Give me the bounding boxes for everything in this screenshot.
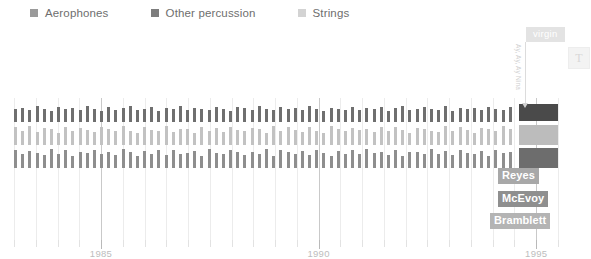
- chart-bar: [14, 109, 17, 122]
- axis-tick: [340, 240, 341, 247]
- chart-bar: [294, 130, 297, 145]
- chart-bar: [466, 153, 469, 168]
- chart-bar: [365, 149, 368, 168]
- chart-bar: [487, 107, 490, 122]
- annotation-badge-virgin[interactable]: virgin: [526, 27, 565, 42]
- chart-bar: [172, 109, 175, 122]
- name-label-reyes[interactable]: Reyes: [498, 168, 539, 184]
- axis-tick: [558, 240, 559, 247]
- chart-bar: [122, 108, 125, 122]
- chart-bar: [265, 149, 268, 168]
- chart-bar: [165, 155, 168, 168]
- chart-bar: [222, 154, 225, 168]
- chart-bar: [172, 150, 175, 168]
- chart-bar: [502, 126, 505, 145]
- chart-bar: [322, 153, 325, 168]
- chart-bar: [401, 106, 404, 122]
- legend-item-strings[interactable]: Strings: [298, 7, 350, 19]
- highlight-block-other-percussion[interactable]: [519, 148, 558, 168]
- chart-bar: [21, 154, 24, 168]
- chart-bar: [251, 128, 254, 145]
- chart-bar: [279, 107, 282, 122]
- chart-bar: [437, 132, 440, 145]
- chart-bar: [258, 129, 261, 145]
- chart-bar: [365, 129, 368, 145]
- chart-bar: [380, 107, 383, 122]
- chart-bar: [444, 126, 447, 145]
- chart-bar: [322, 111, 325, 122]
- chart-bar: [165, 108, 168, 122]
- chart-bar: [423, 154, 426, 168]
- chart-bar: [243, 155, 246, 168]
- chart-legend: Aerophones Other percussion Strings: [30, 7, 391, 19]
- axis-tick: [493, 240, 494, 247]
- chart-bar: [330, 108, 333, 122]
- axis-tick: [36, 240, 37, 247]
- chart-bar: [509, 152, 512, 168]
- legend-swatch-strings: [298, 9, 306, 17]
- chart-bar: [64, 127, 67, 145]
- chart-bar: [36, 132, 39, 145]
- chart-bar: [251, 152, 254, 168]
- chart-bar: [150, 154, 153, 168]
- chart-bar: [294, 108, 297, 122]
- chart-bar: [243, 108, 246, 122]
- chart-bar: [258, 106, 261, 122]
- chart-bar: [129, 131, 132, 145]
- axis-tick: [297, 240, 298, 247]
- chart-bar: [330, 126, 333, 145]
- chart-bar: [179, 106, 182, 122]
- name-label-mcevoy[interactable]: McEvoy: [498, 191, 548, 207]
- chart-bar: [86, 106, 89, 122]
- chart-bar: [394, 108, 397, 122]
- axis-tick: [145, 240, 146, 247]
- chart-bar: [416, 152, 419, 168]
- chart-bar: [136, 110, 139, 122]
- chart-bar: [143, 109, 146, 122]
- legend-label-aerophones: Aerophones: [45, 7, 109, 19]
- legend-swatch-other-percussion: [151, 9, 159, 17]
- chart-bar: [387, 111, 390, 122]
- legend-item-other-percussion[interactable]: Other percussion: [151, 7, 256, 19]
- chart-bar: [236, 107, 239, 122]
- chart-row-other-percussion: [0, 148, 591, 168]
- chart-bar: [129, 152, 132, 168]
- chart-bar: [36, 153, 39, 168]
- chart-x-axis: 198519901995: [0, 240, 591, 259]
- chart-bar: [215, 128, 218, 145]
- chart-bar: [107, 129, 110, 145]
- chart-bar: [337, 109, 340, 122]
- axis-tick: [166, 240, 167, 247]
- chart-bar: [380, 152, 383, 168]
- chart-bar: [301, 151, 304, 168]
- annotation-rotated-note: Ay, Ay, Ay Nina: [512, 44, 522, 102]
- chart-bar: [466, 109, 469, 122]
- chart-bar: [265, 109, 268, 122]
- chart-bar: [122, 149, 125, 168]
- chart-bar: [351, 150, 354, 168]
- highlight-block-strings[interactable]: [519, 125, 558, 145]
- chart-bar: [186, 110, 189, 122]
- axis-tick: [210, 240, 211, 247]
- chart-bar: [308, 106, 311, 122]
- text-tool-button[interactable]: T: [568, 47, 590, 69]
- chart-bar: [444, 151, 447, 168]
- chart-bar: [208, 149, 211, 168]
- chart-bar: [351, 107, 354, 122]
- chart-bar: [466, 130, 469, 145]
- chart-bar: [387, 131, 390, 145]
- chart-bar: [79, 128, 82, 145]
- chart-bar: [373, 153, 376, 168]
- axis-tick: [449, 240, 450, 247]
- chart-bar: [509, 129, 512, 145]
- chart-bar: [222, 132, 225, 145]
- chart-bar: [186, 129, 189, 145]
- chart-bar: [50, 129, 53, 145]
- chart-bar: [494, 150, 497, 168]
- name-label-bramblett[interactable]: Bramblett: [490, 213, 550, 229]
- legend-item-aerophones[interactable]: Aerophones: [30, 7, 109, 19]
- chart-bar: [236, 152, 239, 168]
- chart-bar: [28, 110, 31, 122]
- chart-bar: [71, 108, 74, 122]
- chart-bar: [473, 133, 476, 145]
